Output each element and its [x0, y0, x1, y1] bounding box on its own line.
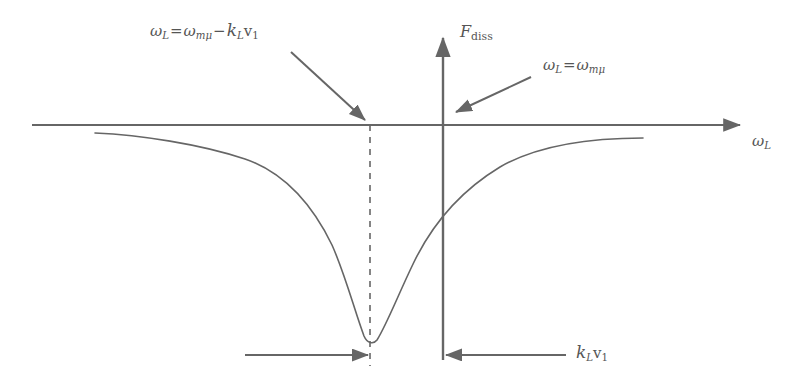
omega-subscript-mmu: mμ	[589, 64, 605, 75]
label-detuned-resonance-condition: ωL=ωmμ−kLv1	[150, 22, 259, 39]
equals-sign: =	[562, 56, 577, 74]
omega-symbol-2: ω	[184, 22, 196, 40]
minus-sign: −	[212, 22, 227, 40]
omega-symbol: ω	[752, 132, 764, 150]
wavevector-symbol: k	[576, 342, 586, 362]
detuned-resonance-pointer-arrow	[291, 52, 365, 120]
x-axis-label: ωL	[752, 134, 771, 149]
label-width-measure: kLv1	[576, 344, 608, 361]
velocity-subscript-1: 1	[252, 30, 258, 41]
omega-symbol-2: ω	[577, 56, 589, 74]
omega-subscript-L: L	[555, 64, 562, 75]
velocity-symbol: v	[593, 344, 601, 362]
velocity-symbol: v	[244, 22, 252, 40]
figure-dissipative-force: ωL=ωmμ−kLv1 ωL=ωmμ Fdiss ωL kLv1	[0, 0, 794, 389]
omega-symbol: ω	[543, 56, 555, 74]
force-subscript-diss: diss	[471, 30, 493, 43]
bare-resonance-pointer-arrow	[456, 77, 531, 112]
velocity-subscript-1: 1	[602, 352, 608, 363]
dissipative-force-curve	[95, 133, 643, 343]
equals-sign: =	[169, 22, 184, 40]
plot-canvas	[0, 0, 794, 389]
force-symbol: F	[460, 22, 471, 41]
label-bare-resonance-condition: ωL=ωmμ	[543, 58, 605, 73]
omega-subscript-L: L	[162, 30, 169, 41]
y-axis-label: Fdiss	[460, 24, 493, 40]
omega-symbol: ω	[150, 22, 162, 40]
omega-subscript-mmu: mμ	[196, 30, 212, 41]
wavevector-symbol: k	[227, 20, 237, 40]
wavevector-subscript-L: L	[237, 30, 244, 41]
omega-subscript-L: L	[764, 140, 771, 151]
